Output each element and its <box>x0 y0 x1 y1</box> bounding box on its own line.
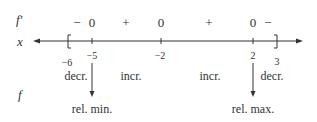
sign-zero: 0 <box>250 16 257 29</box>
f-label: f <box>18 88 22 101</box>
sign-zero: 0 <box>89 16 96 29</box>
behavior-increasing: incr. <box>200 70 221 82</box>
relative-maximum-label: rel. max. <box>232 103 274 115</box>
relative-minimum-label: rel. min. <box>72 103 112 115</box>
sign-negative: − <box>264 16 271 29</box>
behavior-increasing: incr. <box>121 70 142 82</box>
right-arrowhead-icon <box>296 39 303 44</box>
tick-label-3: 3 <box>275 57 280 67</box>
tick-label-neg6: −6 <box>62 58 73 68</box>
behavior-decreasing: decr. <box>261 70 284 82</box>
sign-positive: + <box>122 16 129 29</box>
x-label: x <box>17 35 23 48</box>
down-arrow-icon <box>251 91 256 97</box>
tick-label-neg2: −2 <box>155 51 166 61</box>
tick-label-neg5: −5 <box>87 51 98 61</box>
sign-zero: 0 <box>158 16 165 29</box>
down-arrow-icon <box>90 91 95 97</box>
f-prime-label: f′ <box>16 13 22 26</box>
behavior-decreasing: decr. <box>65 70 88 82</box>
sign-negative: − <box>73 16 80 29</box>
tick-label-2: 2 <box>251 51 256 61</box>
left-arrowhead-icon <box>33 39 40 44</box>
sign-positive: + <box>205 16 212 29</box>
